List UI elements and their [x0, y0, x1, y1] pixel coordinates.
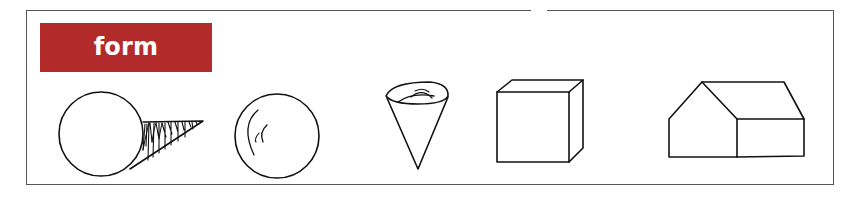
cube-shape — [497, 80, 583, 162]
ball-highlight-shape — [235, 94, 319, 178]
house-shape — [669, 82, 804, 157]
shapes-canvas — [0, 0, 856, 200]
sphere-shadow-shape — [59, 92, 203, 176]
cone-shape — [386, 82, 448, 169]
